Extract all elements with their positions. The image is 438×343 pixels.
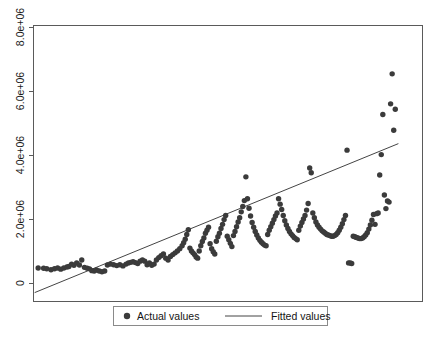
data-point	[276, 196, 281, 201]
data-point	[232, 229, 237, 234]
plot-svg: 0 2.0e+06 4.0e+06 6.0e+06 8.0e+06 Actual…	[0, 0, 438, 343]
data-point	[304, 207, 309, 212]
data-point	[379, 152, 384, 157]
y-tick-label-6e6: 6.0e+06	[14, 72, 26, 110]
data-point	[375, 210, 380, 215]
data-point	[239, 209, 244, 214]
data-point	[382, 192, 387, 197]
data-point	[217, 231, 222, 236]
data-point	[243, 174, 248, 179]
data-point	[393, 106, 398, 111]
data-point	[372, 222, 377, 227]
data-point	[310, 210, 315, 215]
data-point	[229, 244, 234, 249]
data-point	[223, 213, 228, 218]
data-point	[295, 237, 300, 242]
data-point	[380, 112, 385, 117]
data-point	[349, 261, 354, 266]
data-point	[212, 251, 217, 256]
data-point	[184, 232, 189, 237]
data-point	[220, 222, 225, 227]
data-point	[183, 236, 188, 241]
legend-actual-label: Actual values	[137, 310, 199, 322]
y-tick-label-8e6: 8.0e+06	[14, 8, 26, 46]
data-point	[305, 201, 310, 206]
y-tick-label-0: 0	[14, 280, 26, 286]
data-point	[35, 265, 40, 270]
data-point	[277, 201, 282, 206]
data-point	[245, 196, 250, 201]
data-point	[201, 235, 206, 240]
actual-values-markers	[35, 71, 397, 274]
data-point	[274, 210, 279, 215]
data-point	[240, 204, 245, 209]
data-point	[386, 199, 391, 204]
data-point	[195, 255, 200, 260]
scatter-plot-figure: 0 2.0e+06 4.0e+06 6.0e+06 8.0e+06 Actual…	[0, 0, 438, 343]
y-tick-label-2e6: 2.0e+06	[14, 200, 26, 238]
data-point	[234, 224, 239, 229]
caption-text	[6, 334, 246, 343]
data-point	[279, 207, 284, 212]
data-point	[309, 170, 314, 175]
y-axis-tick-labels: 0 2.0e+06 4.0e+06 6.0e+06 8.0e+06	[14, 8, 26, 286]
data-point	[281, 213, 286, 218]
data-point	[383, 206, 388, 211]
legend-fitted-label: Fitted values	[271, 310, 331, 322]
data-point	[368, 222, 373, 227]
chart-legend: Actual values Fitted values	[114, 307, 331, 326]
data-point	[377, 172, 382, 177]
data-point	[344, 147, 349, 152]
data-point	[388, 101, 393, 106]
data-point	[77, 262, 82, 267]
data-point	[246, 206, 251, 211]
data-point	[197, 248, 202, 253]
data-point	[391, 128, 396, 133]
data-point	[249, 220, 254, 225]
data-point	[389, 71, 394, 76]
data-point	[79, 257, 84, 262]
data-point	[207, 241, 212, 246]
data-point	[237, 215, 242, 220]
y-axis-ticks	[29, 28, 34, 284]
data-point	[307, 165, 312, 170]
legend-actual-marker-icon	[124, 313, 130, 319]
data-point	[206, 225, 211, 230]
data-point	[302, 213, 307, 218]
plot-frame	[34, 26, 423, 302]
data-point	[248, 213, 253, 218]
data-point	[186, 227, 191, 232]
data-point	[102, 268, 107, 273]
data-point	[343, 213, 348, 218]
data-point	[263, 243, 268, 248]
y-tick-label-4e6: 4.0e+06	[14, 136, 26, 174]
